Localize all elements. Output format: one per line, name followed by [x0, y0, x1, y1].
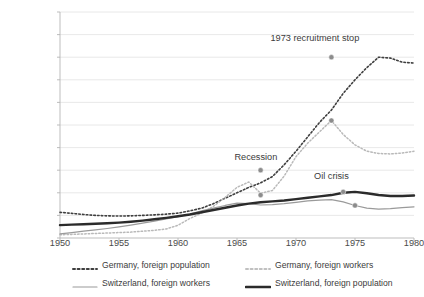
legend-line-swatch [72, 260, 98, 270]
data-point-marker-4 [341, 189, 346, 194]
legend-label: Switzerland, foreign population [275, 278, 393, 288]
chart-container: 0500,0001,000,0001,500,0002,000,0002,500… [0, 0, 424, 297]
legend-line-swatch [245, 278, 271, 288]
x-axis-tick-label: 1970 [286, 238, 306, 248]
x-axis-tick-label: 1975 [345, 238, 365, 248]
legend-item[interactable]: Germany, foreign workers [245, 260, 373, 270]
plot-area: 0500,0001,000,0001,500,0002,000,0002,500… [0, 0, 424, 262]
chart-legend: Germany, foreign populationGermany, fore… [0, 260, 424, 297]
legend-item[interactable]: Germany, foreign population [72, 260, 210, 270]
legend-label: Germany, foreign workers [275, 260, 373, 270]
x-axis-tick-label: 1950 [50, 238, 70, 248]
x-axis-labels: 1950195519601965197019751980 [0, 238, 424, 256]
series-line-1 [60, 120, 414, 234]
legend-line-swatch [245, 260, 271, 270]
data-point-marker-3 [329, 55, 334, 60]
chart-annotation-2: Oil crisis [314, 171, 349, 181]
legend-label: Switzerland, foreign workers [102, 278, 210, 288]
x-axis-tick-label: 1965 [227, 238, 247, 248]
legend-row: Switzerland, foreign workersSwitzerland,… [0, 278, 424, 293]
data-point-marker-0 [258, 192, 263, 197]
legend-row: Germany, foreign populationGermany, fore… [0, 260, 424, 275]
x-axis-tick-label: 1980 [404, 238, 424, 248]
data-point-marker-5 [352, 203, 357, 208]
data-point-marker-1 [258, 168, 263, 173]
x-axis-tick-label: 1955 [109, 238, 129, 248]
chart-annotation-1: Recession [234, 152, 277, 162]
chart-annotation-0: 1973 recruitment stop [270, 33, 359, 43]
data-point-marker-2 [329, 118, 334, 123]
x-axis-tick-label: 1960 [168, 238, 188, 248]
legend-line-swatch [72, 278, 98, 288]
chart-canvas [0, 0, 424, 262]
legend-item[interactable]: Switzerland, foreign workers [72, 278, 210, 288]
legend-item[interactable]: Switzerland, foreign population [245, 278, 393, 288]
legend-label: Germany, foreign population [102, 260, 210, 270]
series-line-3 [60, 192, 414, 225]
